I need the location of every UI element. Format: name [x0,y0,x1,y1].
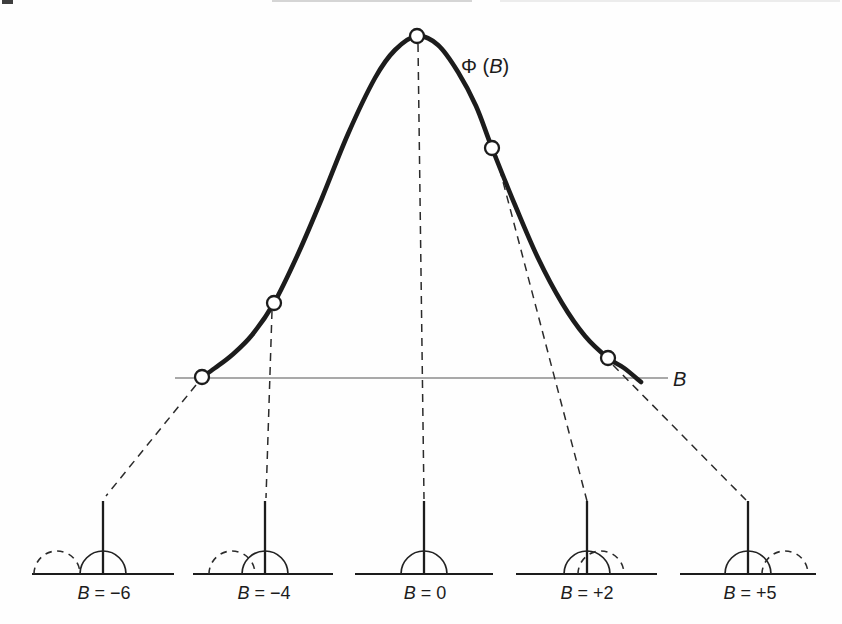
phi-curve-figure: B = −6B = −4B = 0B = +2B = +5 Φ (B) B [0,0,842,624]
mini-dashed-semicircle [578,551,624,574]
mini-diagram: B = +5 [680,501,816,603]
mini-label: B = +2 [560,583,613,603]
curve-function-label: Φ (B) [461,55,509,77]
curve-point-marker [601,351,615,365]
scan-artifact [272,0,472,2]
mini-dashed-semicircle [209,551,255,574]
curve-point-marker [410,29,424,43]
curve-point-marker [485,141,499,155]
mini-label-variable: B [404,583,416,603]
projection-dashed-line [266,311,272,498]
mini-diagram: B = 0 [355,501,493,603]
curve-label-variable: B [489,55,502,77]
mini-diagrams-group: B = −6B = −4B = 0B = +2B = +5 [32,501,816,603]
projection-dashed-line [418,44,424,499]
mini-label-variable: B [723,583,735,603]
scan-artifacts [2,0,840,4]
mini-label: B = 0 [404,583,447,603]
curve-point-marker [267,296,281,310]
projection-lines-group [106,44,746,501]
mini-diagram: B = −4 [193,501,333,603]
curve-label-prefix: Φ ( [461,55,490,77]
mini-diagram: B = +2 [516,501,657,603]
mini-label: B = −4 [237,583,290,603]
mini-label-variable: B [237,583,249,603]
mini-label-variable: B [560,583,572,603]
scan-artifact [500,0,840,2]
mini-label: B = −6 [77,583,130,603]
mini-label-value: = 0 [416,583,447,603]
projection-dashed-line [496,155,587,501]
mini-label-value: = +5 [735,583,776,603]
mini-diagram: B = −6 [32,501,174,603]
mini-label: B = +5 [723,583,776,603]
curve-label-suffix: ) [503,55,510,77]
mini-label-value: = −6 [89,583,130,603]
mini-label-value: = +2 [572,583,613,603]
curve-point-marker [195,370,209,384]
b-axis-label: B [673,368,686,390]
mini-label-variable: B [77,583,89,603]
figure-page: B = −6B = −4B = 0B = +2B = +5 Φ (B) B [0,0,842,624]
scan-artifact [2,0,13,4]
mini-label-value: = −4 [249,583,290,603]
mini-dashed-semicircle [34,551,80,574]
projection-dashed-line [106,385,196,496]
